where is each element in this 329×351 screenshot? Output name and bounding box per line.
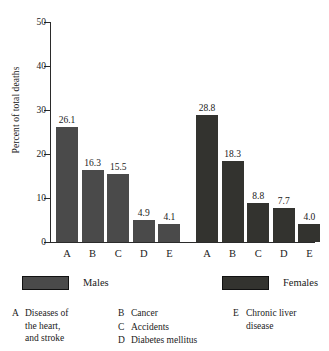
y-axis-tick-label: 30 (37, 102, 47, 118)
bar-value-label: 4.9 (138, 208, 150, 219)
y-axis-tick-label: 0 (41, 234, 46, 250)
bar-value-label: 26.1 (59, 115, 76, 126)
bar-value-label: 15.5 (110, 162, 127, 173)
legend-entry-females: Females (222, 276, 318, 290)
bar: 7.7D (273, 208, 295, 242)
bar-rect (107, 174, 129, 242)
legend-label-males: Males (83, 276, 109, 290)
plot-area: 50403020100 26.1A16.3B15.5C4.9D4.1E28.8A… (50, 22, 315, 242)
x-axis-category-label: D (280, 248, 288, 260)
x-axis-category-label: A (63, 248, 71, 260)
bar-value-label: 8.8 (252, 191, 264, 202)
bar: 4.9D (133, 220, 155, 242)
bar-rect (196, 115, 218, 242)
y-axis-tick-label: 20 (37, 146, 47, 162)
bar-value-label: 4.0 (303, 212, 315, 223)
category-key-column-3: EChronic liver disease (233, 307, 296, 333)
category-key-text: Diseases of the heart, and stroke (25, 307, 69, 345)
bar-value-label: 16.3 (84, 158, 101, 169)
category-key-row: EChronic liver disease (233, 307, 296, 332)
category-key-text: Cancer (131, 307, 158, 320)
x-axis-line (50, 242, 315, 243)
x-axis-category-label: D (140, 248, 148, 260)
bar-rect (222, 161, 244, 242)
bar-rect (133, 220, 155, 242)
bar: 28.8A (196, 115, 218, 242)
x-axis-category-label: B (89, 248, 96, 260)
bar: 8.8C (247, 203, 269, 242)
bar-rect (298, 224, 320, 242)
legend-entry-males: Males (22, 276, 109, 290)
category-key-column-2: BCancerCAccidentsDDiabetes mellitus (118, 307, 197, 348)
x-axis-category-label: E (166, 248, 172, 260)
category-key-row: DDiabetes mellitus (118, 334, 197, 347)
bar-rect (56, 127, 78, 242)
x-axis-category-label: E (306, 248, 312, 260)
bar: 4.0E (298, 224, 320, 242)
category-key-letter: A (12, 307, 25, 320)
bar-rect (158, 224, 180, 242)
bar: 15.5C (107, 174, 129, 242)
category-key-letter: D (118, 334, 131, 347)
bar: 26.1A (56, 127, 78, 242)
bar-value-label: 18.3 (224, 149, 241, 160)
x-axis-category-label: C (115, 248, 122, 260)
bar-value-label: 4.1 (163, 212, 175, 223)
category-key-text: Diabetes mellitus (131, 334, 197, 347)
y-axis-tick-label: 50 (37, 14, 47, 30)
bar-rect (82, 170, 104, 242)
bar-value-label: 7.7 (278, 196, 290, 207)
legend-swatch-females (222, 276, 269, 290)
category-key-text: Chronic liver disease (246, 307, 296, 332)
x-axis-category-label: B (229, 248, 236, 260)
category-key-letter: B (118, 307, 131, 320)
bar-value-label: 28.8 (199, 103, 216, 114)
category-key: ADiseases of the heart, and stroke BCanc… (0, 307, 329, 351)
bar: 4.1E (158, 224, 180, 242)
category-key-row: BCancer (118, 307, 197, 320)
bar-rect (273, 208, 295, 242)
legend-label-females: Females (283, 276, 318, 290)
bar: 18.3B (222, 161, 244, 242)
category-key-row: ADiseases of the heart, and stroke (12, 307, 69, 345)
bar-chart-figure: Percent of total deaths 50403020100 26.1… (0, 0, 329, 351)
bar: 16.3B (82, 170, 104, 242)
legend-swatch-males (22, 276, 69, 290)
category-key-row: CAccidents (118, 321, 197, 334)
y-axis-tick-label: 10 (37, 190, 47, 206)
bar-rect (247, 203, 269, 242)
y-axis-line (50, 22, 51, 242)
x-axis-category-label: C (255, 248, 262, 260)
y-axis-tick-label: 40 (37, 58, 47, 74)
category-key-letter: E (233, 307, 246, 320)
category-key-text: Accidents (131, 321, 169, 334)
x-axis-category-label: A (203, 248, 211, 260)
y-axis-title: Percent of total deaths (8, 0, 24, 220)
legend: Males Females (0, 276, 329, 302)
y-axis-title-text: Percent of total deaths (11, 67, 21, 154)
category-key-column-1: ADiseases of the heart, and stroke (12, 307, 69, 346)
category-key-letter: C (118, 321, 131, 334)
